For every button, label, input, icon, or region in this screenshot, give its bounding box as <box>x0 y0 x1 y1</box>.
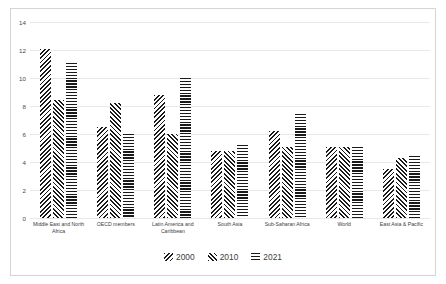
x-axis-tick-label: East Asia & Pacific <box>373 219 430 249</box>
bar-2021 <box>66 63 77 218</box>
y-axis-tick-label: 8 <box>2 103 26 110</box>
bar-2010 <box>167 134 178 218</box>
bar-2000 <box>326 147 337 218</box>
bar-2000 <box>97 127 108 218</box>
bar-2021 <box>409 156 420 218</box>
bar-group <box>201 22 258 218</box>
y-axis-tick-label: 12 <box>2 47 26 54</box>
legend-item-2021[interactable]: 2021 <box>251 252 282 262</box>
bar-2010 <box>110 103 121 218</box>
bar-2021 <box>237 145 248 218</box>
legend-swatch-icon <box>251 253 260 261</box>
bar-2000 <box>40 49 51 218</box>
x-axis-tick-label: Middle East and North Africa <box>30 219 87 249</box>
bar-2010 <box>339 147 350 218</box>
bar-group <box>259 22 316 218</box>
x-axis-tick-label: Latin America and Caribbean <box>144 219 201 249</box>
bar-2021 <box>180 78 191 218</box>
legend-swatch-icon <box>164 253 173 261</box>
x-axis-tick-label: OECD members <box>87 219 144 249</box>
x-axis-tick-label: World <box>316 219 373 249</box>
y-axis-tick-label: 10 <box>2 75 26 82</box>
y-axis-tick-label: 6 <box>2 131 26 138</box>
bar-2010 <box>53 100 64 218</box>
plot-area <box>30 22 430 218</box>
bar-group <box>87 22 144 218</box>
bar-2000 <box>211 151 222 218</box>
y-axis-tick-label: 0 <box>2 215 26 222</box>
x-axis: Middle East and North AfricaOECD members… <box>30 219 430 249</box>
y-axis-tick-label: 2 <box>2 187 26 194</box>
bar-2000 <box>383 169 394 218</box>
legend-swatch-icon <box>208 253 217 261</box>
bar-group <box>316 22 373 218</box>
y-axis-tick-label: 14 <box>2 19 26 26</box>
bar-group <box>144 22 201 218</box>
legend-label: 2021 <box>263 252 282 262</box>
bar-group <box>373 22 430 218</box>
x-axis-tick-label: Sub-Saharan Africa <box>259 219 316 249</box>
legend-item-2000[interactable]: 2000 <box>164 252 195 262</box>
legend-label: 2010 <box>220 252 239 262</box>
bar-group <box>30 22 87 218</box>
y-axis: 02468101214 <box>0 22 26 218</box>
legend-label: 2000 <box>176 252 195 262</box>
legend-item-2010[interactable]: 2010 <box>208 252 239 262</box>
chart-legend: 200020102021 <box>0 252 446 262</box>
bar-2000 <box>154 95 165 218</box>
bar-2010 <box>224 151 235 218</box>
bar-chart: 02468101214 Middle East and North Africa… <box>0 0 446 284</box>
y-axis-tick-label: 4 <box>2 159 26 166</box>
bar-2021 <box>123 134 134 218</box>
bar-2021 <box>352 147 363 218</box>
x-axis-tick-label: South Asia <box>201 219 258 249</box>
bar-2010 <box>396 158 407 218</box>
bar-groups <box>30 22 430 218</box>
bar-2021 <box>295 114 306 218</box>
bar-2010 <box>282 147 293 218</box>
bar-2000 <box>269 131 280 218</box>
